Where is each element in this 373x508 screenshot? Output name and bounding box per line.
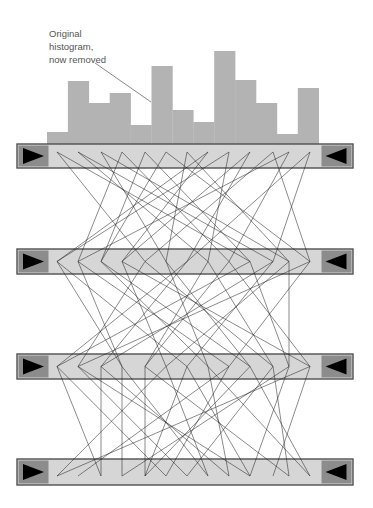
diagram-canvas [0, 0, 373, 508]
histogram-bar [47, 132, 68, 144]
connection-line [57, 262, 250, 367]
histogram-bar [110, 93, 131, 144]
histogram-bar [172, 110, 193, 144]
connection-line [122, 262, 310, 367]
histogram-bar [68, 81, 89, 144]
connection-line [145, 262, 273, 367]
histogram-bar [152, 66, 173, 144]
histogram-bar [256, 103, 277, 144]
annotation-line-3: now removed [49, 53, 106, 66]
connection-lines [57, 152, 310, 476]
connection-line [78, 262, 122, 367]
bar-track [17, 144, 353, 168]
connection-line [101, 262, 273, 367]
annotation-label: Original histogram, now removed [49, 27, 106, 66]
bar-1[interactable] [17, 144, 353, 168]
connection-line [166, 262, 250, 367]
connection-line [122, 262, 166, 367]
histogram-bar [214, 51, 235, 144]
histogram-bar [298, 88, 319, 144]
connection-line [78, 262, 145, 367]
histogram-bar [235, 80, 256, 144]
histogram-bar [131, 125, 152, 144]
annotation-line-1: Original [49, 27, 106, 40]
connection-line [208, 262, 273, 367]
histogram-bar [89, 103, 110, 144]
connection-line [78, 262, 310, 367]
annotation-line-2: histogram, [49, 40, 106, 53]
histogram-bar [277, 134, 298, 144]
histogram-bar [193, 122, 214, 144]
dimension-bars [17, 144, 353, 485]
connection-line [187, 262, 273, 367]
